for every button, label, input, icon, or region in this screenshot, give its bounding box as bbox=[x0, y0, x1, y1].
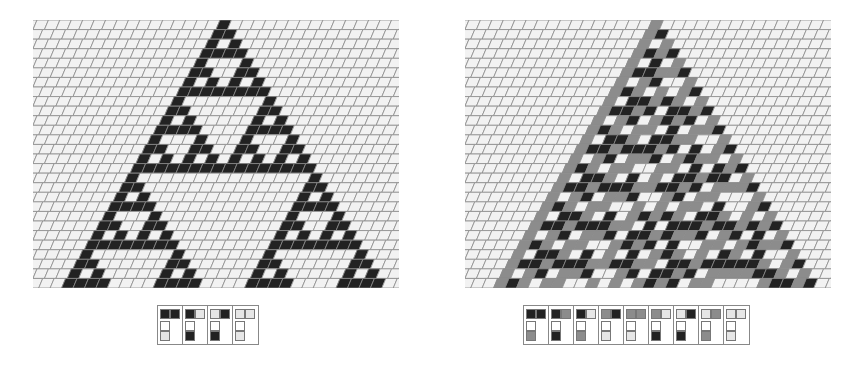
rule-left-input-cell bbox=[676, 309, 686, 319]
rule-spacer-cell bbox=[601, 321, 611, 331]
rule-left-input-cell bbox=[651, 309, 661, 319]
rule-spacer-cell bbox=[235, 321, 245, 331]
rule-right-input-cell bbox=[586, 309, 596, 319]
rule-left-input-cell bbox=[235, 309, 245, 319]
right-rule-icons bbox=[523, 305, 750, 345]
rule-left-input-cell bbox=[160, 309, 170, 319]
rule-right-input-cell bbox=[561, 309, 571, 319]
rule-icon bbox=[674, 306, 699, 344]
rule-output-cell bbox=[701, 331, 711, 341]
rule-right-input-cell bbox=[711, 309, 721, 319]
rule-right-input-cell bbox=[245, 309, 255, 319]
rule-left-input-cell bbox=[701, 309, 711, 319]
rule-right-input-cell bbox=[686, 309, 696, 319]
rule-icon bbox=[574, 306, 599, 344]
left-automaton-grid bbox=[33, 20, 399, 288]
rule-left-input-cell bbox=[551, 309, 561, 319]
rule-output-cell bbox=[601, 331, 611, 341]
rule-output-cell bbox=[210, 331, 220, 341]
rule-icon bbox=[699, 306, 724, 344]
rule-icon bbox=[524, 306, 549, 344]
right-automaton-grid bbox=[465, 20, 831, 288]
rule-output-cell bbox=[235, 331, 245, 341]
rule-icon bbox=[599, 306, 624, 344]
rule-output-cell bbox=[551, 331, 561, 341]
rule-left-input-cell bbox=[210, 309, 220, 319]
rule-spacer-cell bbox=[526, 321, 536, 331]
rule-icon bbox=[724, 306, 749, 344]
rule-right-input-cell bbox=[611, 309, 621, 319]
rule-spacer-cell bbox=[551, 321, 561, 331]
rule-output-cell bbox=[576, 331, 586, 341]
rule-right-input-cell bbox=[661, 309, 671, 319]
rule-spacer-cell bbox=[185, 321, 195, 331]
rule-spacer-cell bbox=[701, 321, 711, 331]
rule-right-input-cell bbox=[536, 309, 546, 319]
rule-icon bbox=[624, 306, 649, 344]
rule-left-input-cell bbox=[185, 309, 195, 319]
rule-output-cell bbox=[626, 331, 636, 341]
rule-spacer-cell bbox=[210, 321, 220, 331]
rule-left-input-cell bbox=[601, 309, 611, 319]
rule-spacer-cell bbox=[626, 321, 636, 331]
rule-right-input-cell bbox=[736, 309, 746, 319]
rule-icon bbox=[183, 306, 208, 344]
rule-spacer-cell bbox=[726, 321, 736, 331]
rule-left-input-cell bbox=[576, 309, 586, 319]
rule-icon bbox=[649, 306, 674, 344]
rule-right-input-cell bbox=[170, 309, 180, 319]
automaton-cells bbox=[33, 20, 399, 288]
rule-output-cell bbox=[526, 331, 536, 341]
rule-output-cell bbox=[160, 331, 170, 341]
rule-left-input-cell bbox=[726, 309, 736, 319]
rule-icon bbox=[549, 306, 574, 344]
rule-right-input-cell bbox=[636, 309, 646, 319]
rule-spacer-cell bbox=[160, 321, 170, 331]
rule-left-input-cell bbox=[626, 309, 636, 319]
rule-left-input-cell bbox=[526, 309, 536, 319]
left-rule-icons bbox=[157, 305, 259, 345]
rule-right-input-cell bbox=[220, 309, 230, 319]
rule-right-input-cell bbox=[195, 309, 205, 319]
rule-spacer-cell bbox=[676, 321, 686, 331]
rule-output-cell bbox=[726, 331, 736, 341]
rule-icon bbox=[158, 306, 183, 344]
rule-output-cell bbox=[185, 331, 195, 341]
rule-spacer-cell bbox=[576, 321, 586, 331]
rule-icon bbox=[208, 306, 233, 344]
rule-spacer-cell bbox=[651, 321, 661, 331]
rule-output-cell bbox=[651, 331, 661, 341]
automaton-cells bbox=[465, 20, 831, 288]
rule-output-cell bbox=[676, 331, 686, 341]
rule-icon bbox=[233, 306, 258, 344]
